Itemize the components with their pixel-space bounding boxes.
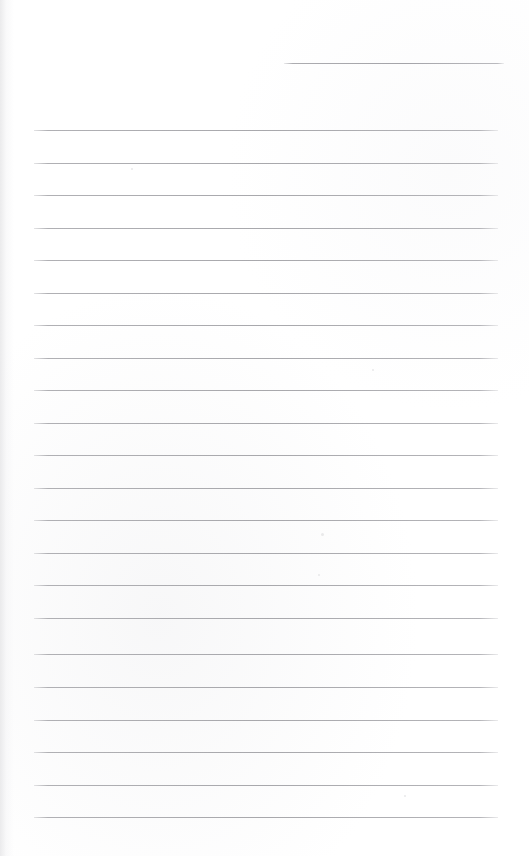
ruled-line xyxy=(34,390,498,391)
ruled-line xyxy=(34,585,498,586)
ruled-line xyxy=(34,520,498,521)
paper-texture xyxy=(0,0,529,856)
ruled-line xyxy=(34,720,498,721)
ruled-line xyxy=(34,325,498,326)
ruled-line xyxy=(34,687,498,688)
ruled-line xyxy=(34,358,498,359)
scan-speck xyxy=(131,168,133,170)
ruled-line xyxy=(34,260,498,261)
ruled-line xyxy=(34,553,498,554)
ruled-line xyxy=(34,455,498,456)
ruled-line xyxy=(34,423,498,424)
ruled-line xyxy=(34,817,498,818)
scan-speck xyxy=(372,369,374,371)
scan-speck xyxy=(321,533,324,536)
ruled-line xyxy=(34,785,498,786)
notebook-page xyxy=(0,0,529,856)
scan-speck xyxy=(404,795,406,797)
ruled-line xyxy=(34,654,498,655)
ruled-line xyxy=(34,228,498,229)
ruled-line xyxy=(34,163,498,164)
ruled-line xyxy=(34,195,498,196)
ruled-line xyxy=(34,752,498,753)
scan-speck xyxy=(318,574,320,576)
ruled-line xyxy=(34,130,498,131)
ruled-line xyxy=(34,618,498,619)
short-ruled-line xyxy=(284,63,504,64)
ruled-line xyxy=(34,488,498,489)
scan-edge-shadow xyxy=(0,0,14,856)
ruled-line xyxy=(34,293,498,294)
